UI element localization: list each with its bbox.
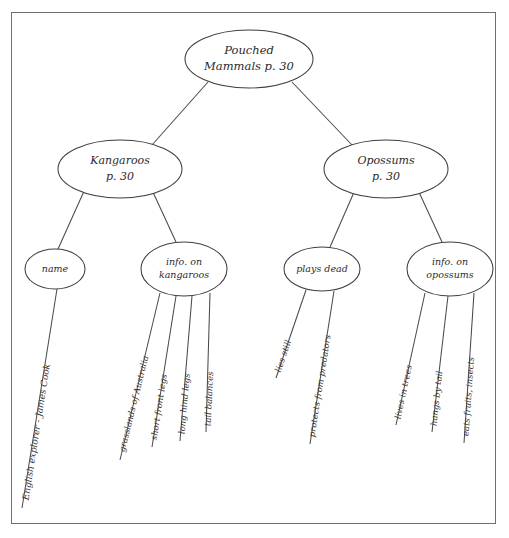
leaf-long-hind-legs: long hind legs (177, 372, 192, 434)
nodes-layer: PouchedMammals p. 30Kangaroosp. 30Opossu… (25, 30, 493, 296)
node-name[interactable]: name (25, 249, 85, 289)
node-label-name: name (42, 263, 69, 274)
node-label-root: Pouched (223, 43, 274, 57)
leaf-english-explorer: English explorer - James Cook (20, 363, 52, 502)
edge-root-to-kangaroos (152, 82, 208, 145)
node-label-plays-dead: plays dead (296, 263, 348, 274)
node-label-info-opossums: info. on (432, 256, 468, 267)
edge-opossums-to-info-opossums (418, 190, 442, 242)
leaf-lies-still: lies still (273, 338, 293, 373)
node-root[interactable]: PouchedMammals p. 30 (185, 30, 313, 88)
node-label-info-kangaroos: kangaroos (159, 269, 209, 280)
node-label-kangaroos: p. 30 (106, 170, 134, 183)
node-plays-dead[interactable]: plays dead (284, 247, 360, 291)
node-label-info-kangaroos: info. on (166, 256, 202, 267)
leaf-protects: protects from predators (307, 333, 333, 437)
leaf-hangs-by-tail: hangs by tail (429, 370, 445, 426)
node-label-info-opossums: opossums (426, 269, 473, 280)
edge-kangaroos-to-name (58, 189, 85, 249)
node-label-opossums: Opossums (357, 154, 414, 167)
edge-kangaroos-to-info-kangaroos (152, 190, 176, 242)
leaf-tail-balances: tail balances (203, 371, 216, 427)
node-info-opossums[interactable]: info. onopossums (407, 242, 493, 296)
node-kangaroos[interactable]: Kangaroosp. 30 (58, 140, 182, 198)
node-info-kangaroos[interactable]: info. onkangaroos (141, 242, 227, 296)
node-opossums[interactable]: Opossumsp. 30 (324, 140, 448, 198)
node-label-root: Mammals p. 30 (203, 59, 294, 73)
edge-opossums-to-plays-dead (330, 190, 355, 247)
diagram-canvas: PouchedMammals p. 30Kangaroosp. 30Opossu… (0, 0, 509, 538)
node-label-opossums: p. 30 (372, 170, 400, 183)
leaf-eats-fruits: eats fruits, insects (461, 356, 477, 436)
leaf-grasslands: grasslands of Australia (117, 355, 151, 454)
leaf-short-front-legs: short front legs (149, 373, 169, 441)
leaf-labels-layer: English explorer - James Cookgrasslands … (20, 333, 476, 501)
edge-root-to-opossums (292, 82, 352, 145)
node-label-kangaroos: Kangaroos (89, 154, 150, 167)
leaf-lives-in-trees: lives in trees (393, 363, 414, 420)
concept-map-graph: PouchedMammals p. 30Kangaroosp. 30Opossu… (0, 0, 509, 538)
